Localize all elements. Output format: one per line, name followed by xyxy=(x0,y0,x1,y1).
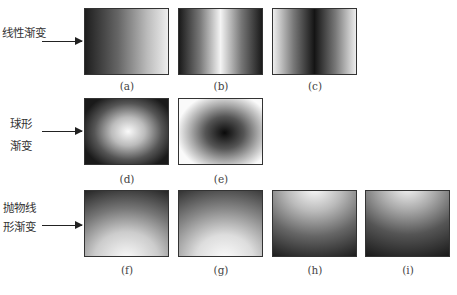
caption-h: (h) xyxy=(272,264,358,276)
caption-c: (c) xyxy=(272,80,358,92)
row-label-parabolic-line1: 抛物线 xyxy=(3,201,36,215)
gradient-panel-b xyxy=(178,8,263,75)
caption-g: (g) xyxy=(178,264,264,276)
row-label-linear: 线性渐变 xyxy=(2,26,46,40)
arrow-icon xyxy=(42,131,82,132)
gradient-panel-i xyxy=(365,190,450,257)
caption-e: (e) xyxy=(178,173,264,185)
gradient-panel-g xyxy=(178,190,263,257)
caption-b: (b) xyxy=(178,80,264,92)
gradient-panel-a xyxy=(84,8,169,75)
arrow-icon xyxy=(42,41,82,42)
gradient-panel-c xyxy=(272,8,357,75)
caption-i: (i) xyxy=(365,264,451,276)
row-label-spherical-line2: 渐变 xyxy=(10,139,32,153)
caption-f: (f) xyxy=(84,264,170,276)
gradient-panel-d xyxy=(84,98,169,165)
row-label-parabolic-line2: 形渐变 xyxy=(3,220,36,234)
gradient-panel-f xyxy=(84,190,169,257)
gradient-panel-e xyxy=(178,98,263,165)
caption-d: (d) xyxy=(84,173,170,185)
caption-a: (a) xyxy=(84,80,170,92)
arrow-icon xyxy=(42,225,82,226)
row-label-spherical-line1: 球形 xyxy=(10,117,32,131)
gradient-panel-h xyxy=(272,190,357,257)
